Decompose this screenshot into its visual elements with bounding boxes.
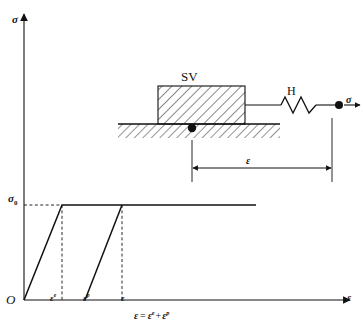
origin-label: O (6, 293, 15, 306)
yield-stress-subscript: 0 (14, 199, 17, 206)
applied-load-label: σ (346, 95, 351, 105)
elastic-strain-tick-label: εe (50, 294, 56, 303)
saint-venant-slider-label: SV (181, 70, 198, 83)
equation-term1-sup: e (152, 309, 155, 316)
equation-plus: + (156, 310, 162, 321)
rheological-model-group (118, 86, 360, 138)
contact-node-dot (188, 124, 196, 132)
plastic-strain-tick-sup: p (87, 292, 90, 298)
equation-term2-sup: p (166, 309, 169, 316)
strain-decomposition-equation: ε=εe+εp (134, 311, 169, 321)
equation-equals: = (140, 310, 146, 321)
hooke-spring-label: H (287, 85, 296, 97)
x-axis-label: ε (347, 293, 351, 303)
stress-strain-curve-group (24, 205, 256, 300)
reloading-curve (85, 205, 122, 300)
saint-venant-slider-block (158, 86, 245, 124)
elastic-strain-tick-sup: e (54, 292, 56, 298)
ground-support (118, 124, 280, 138)
hooke-spring (281, 97, 316, 113)
load-node-dot (335, 101, 343, 109)
strain-dimension-label: ε (246, 156, 250, 166)
y-axis-label: σ (12, 14, 18, 25)
yield-stress-label: σ0 (8, 193, 17, 204)
figure-canvas (0, 0, 364, 335)
total-strain-tick-label: ε (121, 294, 125, 303)
axes-group (24, 14, 350, 300)
loading-curve (24, 205, 256, 300)
plastic-strain-tick-label: εp (83, 294, 90, 303)
stress-strain-figure: σ σ0 O ε εe εp ε ε=εe+εp SV H σ ε (0, 0, 364, 335)
guide-lines-group (24, 205, 122, 300)
equation-lhs: ε (134, 310, 138, 321)
